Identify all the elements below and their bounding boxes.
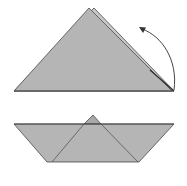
front-triangle <box>14 8 172 91</box>
boat-hull <box>14 124 174 162</box>
result-step-boat <box>14 115 174 162</box>
boat-peak <box>84 115 101 124</box>
fold-step-triangle <box>14 8 174 91</box>
origami-diagram <box>0 0 187 186</box>
